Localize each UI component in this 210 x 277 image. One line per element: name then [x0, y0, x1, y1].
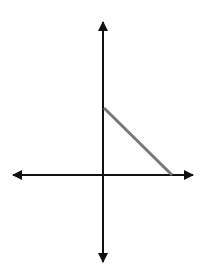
gray-line-segment — [104, 108, 172, 175]
coordinate-plane-diagram — [0, 0, 210, 277]
